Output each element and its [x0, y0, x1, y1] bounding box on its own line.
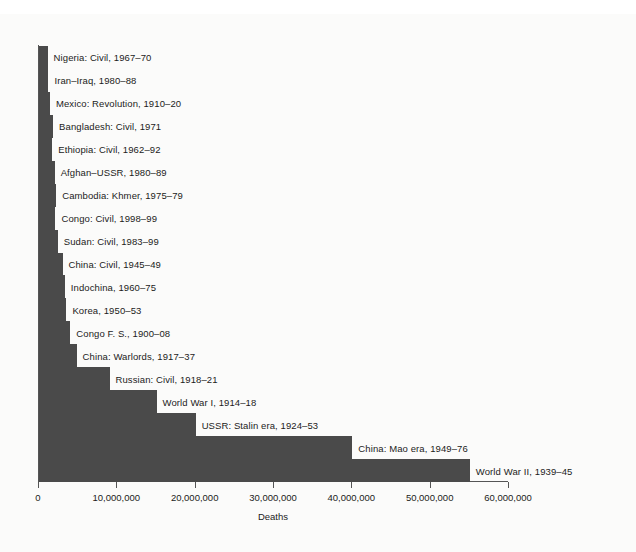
bar: [39, 344, 77, 367]
bar-label: World War II, 1939–45: [476, 465, 573, 476]
bar: [39, 115, 53, 138]
bar: [39, 161, 55, 184]
x-tick-mark: [508, 482, 509, 488]
x-tick-label: 0: [35, 492, 40, 503]
x-tick-mark: [195, 482, 196, 488]
bar-label: Korea, 1950–53: [72, 304, 141, 315]
x-tick-mark: [116, 482, 117, 488]
bar-label: World War I, 1914–18: [163, 396, 257, 407]
bar-label: Congo: Civil, 1998–99: [61, 213, 157, 224]
bar-label: Nigeria: Civil, 1967–70: [54, 52, 152, 63]
bar-label: Russian: Civil, 1918–21: [116, 373, 218, 384]
bar: [39, 184, 56, 207]
bar: [39, 390, 157, 413]
bar-label: China: Mao era, 1949–76: [358, 442, 468, 453]
bar: [39, 92, 50, 115]
bar: [39, 413, 196, 436]
bar: [39, 207, 55, 230]
bar-label: Bangladesh: Civil, 1971: [59, 121, 161, 132]
x-tick-label: 30,000,000: [249, 492, 297, 503]
page-top-margin: [0, 0, 636, 14]
bar-label: Congo F. S., 1900–08: [76, 327, 170, 338]
plot-area: Nigeria: Civil, 1967–70Iran–Iraq, 1980–8…: [38, 45, 508, 481]
bar: [39, 298, 66, 321]
x-tick-label: 50,000,000: [406, 492, 454, 503]
bar-label: China: Warlords, 1917–37: [83, 350, 195, 361]
chart-page: Nigeria: Civil, 1967–70Iran–Iraq, 1980–8…: [0, 0, 636, 552]
x-tick-label: 10,000,000: [93, 492, 141, 503]
bar-label: Indochina, 1960–75: [71, 281, 156, 292]
bar: [39, 69, 48, 92]
bar-label: Mexico: Revolution, 1910–20: [56, 98, 181, 109]
x-tick-mark: [351, 482, 352, 488]
bar-label: Afghan–USSR, 1980–89: [61, 167, 167, 178]
bar-label: Ethiopia: Civil, 1962–92: [58, 144, 160, 155]
x-axis-title: Deaths: [38, 511, 508, 522]
bar: [39, 436, 352, 459]
bar: [39, 230, 58, 253]
bar-label: Iran–Iraq, 1980–88: [54, 75, 136, 86]
bar-label: Cambodia: Khmer, 1975–79: [62, 190, 183, 201]
bar-label: USSR: Stalin era, 1924–53: [202, 419, 319, 430]
bar: [39, 367, 110, 390]
bar: [39, 46, 48, 69]
bar: [39, 138, 52, 161]
x-tick-label: 40,000,000: [328, 492, 376, 503]
bar: [39, 275, 65, 298]
bar-label: China: Civil, 1945–49: [69, 259, 161, 270]
x-tick-mark: [430, 482, 431, 488]
bar-label: Sudan: Civil, 1983–99: [64, 236, 159, 247]
x-tick-mark: [273, 482, 274, 488]
bar: [39, 459, 470, 482]
bar: [39, 253, 63, 276]
bar: [39, 321, 70, 344]
x-tick-label: 60,000,000: [484, 492, 532, 503]
x-tick-mark: [38, 482, 39, 488]
x-tick-label: 20,000,000: [171, 492, 219, 503]
